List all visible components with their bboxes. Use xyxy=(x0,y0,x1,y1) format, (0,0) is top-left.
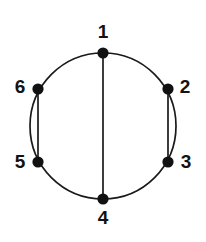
vertex-3 xyxy=(162,156,173,167)
vertex-6 xyxy=(32,83,43,94)
vertex-label-6: 6 xyxy=(15,76,26,97)
vertex-label-2: 2 xyxy=(180,76,191,97)
graph-canvas: 1 2 3 4 5 6 xyxy=(0,0,206,242)
vertex-label-3: 3 xyxy=(181,151,192,172)
vertex-4 xyxy=(97,193,108,204)
vertex-label-1: 1 xyxy=(98,21,109,42)
vertex-1 xyxy=(97,47,108,58)
vertex-label-4: 4 xyxy=(98,207,109,228)
vertex-5 xyxy=(32,156,43,167)
graph-figure: 1 2 3 4 5 6 xyxy=(0,0,206,242)
vertex-label-5: 5 xyxy=(15,151,26,172)
vertex-2 xyxy=(162,83,173,94)
